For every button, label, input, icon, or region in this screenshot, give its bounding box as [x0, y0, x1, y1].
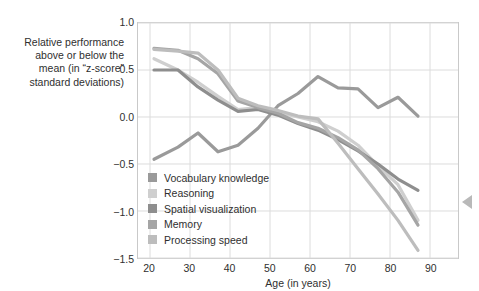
x-tick-label: 20 [129, 262, 169, 274]
x-tick-label: 80 [371, 262, 411, 274]
legend-swatch-icon [148, 173, 157, 182]
legend-swatch-icon [148, 204, 157, 213]
legend-swatch-icon [148, 189, 157, 198]
legend-item: Reasoning [148, 186, 328, 202]
y-tick-label: −1.0 [100, 206, 134, 218]
chart-figure: Relative performance above or below the … [0, 0, 479, 291]
legend-item: Spatial visualization [148, 201, 328, 217]
x-axis-tick-labels: 2030405060708090 [137, 262, 459, 276]
legend-swatch-icon [148, 235, 157, 244]
legend-item-label: Reasoning [164, 187, 214, 199]
x-tick-label: 40 [210, 262, 250, 274]
x-tick-label: 60 [290, 262, 330, 274]
legend-item-label: Processing speed [164, 234, 247, 246]
x-tick-label: 30 [169, 262, 209, 274]
x-tick-label: 70 [330, 262, 370, 274]
legend-item-label: Spatial visualization [164, 203, 256, 215]
x-axis-title: Age (in years) [137, 277, 459, 289]
y-tick-label: 0.5 [100, 63, 134, 75]
y-axis-tick-labels: 1.00.50.0−0.5−1.0−1.5 [96, 22, 134, 259]
y-tick-label: 0.0 [100, 111, 134, 123]
legend-swatch-icon [148, 220, 157, 229]
y-tick-label: 1.0 [100, 16, 134, 28]
legend-item: Processing speed [148, 232, 328, 248]
x-tick-label: 90 [411, 262, 451, 274]
legend-item-label: Memory [164, 218, 202, 230]
x-tick-label: 50 [250, 262, 290, 274]
legend-item-label: Vocabulary knowledge [164, 172, 269, 184]
legend-item: Vocabulary knowledge [148, 170, 328, 186]
right-edge-triangle-marker [462, 195, 472, 209]
y-tick-label: −0.5 [100, 158, 134, 170]
legend-item: Memory [148, 217, 328, 233]
chart-legend: Vocabulary knowledgeReasoningSpatial vis… [148, 170, 328, 248]
